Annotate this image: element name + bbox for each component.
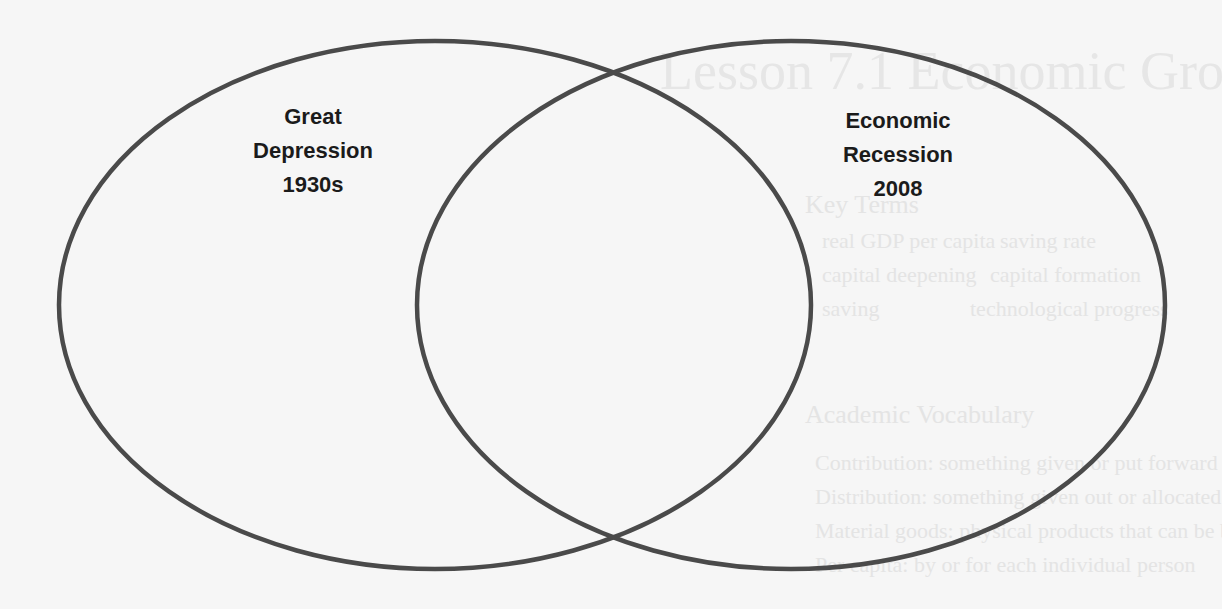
venn-label-economic-recession: Economic Recession 2008 (788, 104, 1008, 206)
venn-circle-left (59, 41, 811, 569)
worksheet-page: Lesson 7.1 Economic Growth Key Terms rea… (0, 0, 1222, 609)
label-line: Economic (788, 104, 1008, 138)
venn-diagram (0, 0, 1222, 609)
label-line: Depression (203, 134, 423, 168)
label-line: 1930s (203, 168, 423, 202)
label-line: Recession (788, 138, 1008, 172)
label-line: 2008 (788, 172, 1008, 206)
label-line: Great (203, 100, 423, 134)
venn-label-great-depression: Great Depression 1930s (203, 100, 423, 202)
